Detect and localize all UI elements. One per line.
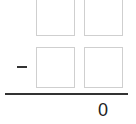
result-value: 0 (94, 100, 112, 120)
subtrahend-tens-box[interactable] (36, 47, 75, 88)
minuend-ones-box[interactable] (84, 0, 123, 36)
result-divider-line (5, 93, 128, 95)
minuend-tens-box[interactable] (36, 0, 75, 36)
minus-sign (17, 66, 27, 68)
subtrahend-ones-box[interactable] (84, 47, 123, 88)
